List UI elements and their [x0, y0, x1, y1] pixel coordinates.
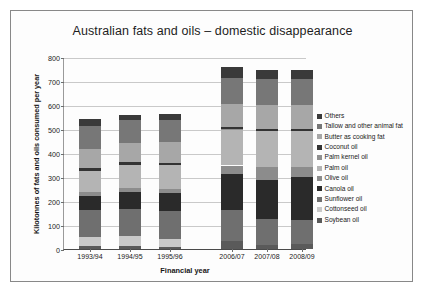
bar-segment — [256, 79, 278, 105]
y-axis-title: Kilotonnes of fats and oils consumed per… — [32, 73, 41, 233]
x-tick-mark — [170, 249, 171, 252]
bar-segment — [159, 142, 181, 163]
x-tick-mark — [232, 249, 233, 252]
bar-segment — [119, 162, 141, 165]
y-tick-label: 500 — [48, 126, 60, 135]
bar-segment — [79, 126, 101, 150]
legend-item-label: Tallow and other animal fat — [325, 123, 403, 130]
legend-item-butter-as-cooking-fat[interactable]: Butter as cooking fat — [317, 132, 411, 142]
bar-segment — [221, 210, 243, 241]
y-tick-label: 200 — [48, 198, 60, 207]
bar-segment — [221, 127, 243, 129]
legend-swatch-icon — [317, 114, 322, 119]
bar-segment — [159, 239, 181, 246]
bar-segment — [159, 211, 181, 240]
y-tick-mark — [61, 106, 64, 107]
y-tick-label: 700 — [48, 78, 60, 87]
x-tick-mark — [267, 249, 268, 252]
y-tick-mark — [61, 202, 64, 203]
legend-swatch-icon — [317, 124, 322, 129]
bar-segment — [119, 236, 141, 246]
legend-item-tallow-and-other-animal-fat[interactable]: Tallow and other animal fat — [317, 121, 411, 131]
bar-segment — [256, 70, 278, 79]
legend-item-label: Palm kernel oil — [325, 154, 368, 161]
y-tick-label: 800 — [48, 54, 60, 63]
x-tick-mark — [130, 249, 131, 252]
legend-swatch-icon — [317, 186, 322, 191]
bar-1993-94[interactable] — [79, 119, 101, 249]
bar-segment — [119, 143, 141, 163]
legend-item-label: Cottonseed oil — [325, 206, 367, 213]
legend-item-olive-oil[interactable]: Olive oil — [317, 173, 411, 183]
legend-item-label: Canola oil — [325, 186, 354, 193]
bar-2006-07[interactable] — [221, 67, 243, 249]
bar-2007-08[interactable] — [256, 70, 278, 249]
legend-item-label: Butter as cooking fat — [325, 134, 385, 141]
x-tick-label: 1994/95 — [117, 253, 142, 260]
y-tick-mark — [61, 178, 64, 179]
y-tick-label: 600 — [48, 102, 60, 111]
bar-segment — [256, 105, 278, 129]
bar-segment — [159, 189, 181, 193]
legend-swatch-icon — [317, 207, 322, 212]
legend-item-palm-kernel-oil[interactable]: Palm kernel oil — [317, 153, 411, 163]
bar-segment — [291, 70, 313, 79]
legend-item-label: Sunflower oil — [325, 196, 363, 203]
legend-item-label: Olive oil — [325, 175, 348, 182]
legend-swatch-icon — [317, 218, 322, 223]
bar-segment — [291, 79, 313, 105]
bar-segment — [221, 78, 243, 104]
x-axis-title: Financial year — [160, 266, 209, 275]
bar-segment — [221, 67, 243, 78]
bar-segment — [79, 210, 101, 237]
x-tick-label: 1995/96 — [157, 253, 182, 260]
bar-segment — [159, 163, 181, 166]
legend-item-cottonseed-oil[interactable]: Cottonseed oil — [317, 205, 411, 215]
bar-segment — [119, 192, 141, 209]
bar-segment — [291, 131, 313, 166]
x-tick-label: 1993/94 — [77, 253, 102, 260]
legend-item-sunflower-oil[interactable]: Sunflower oil — [317, 194, 411, 204]
bar-segment — [256, 219, 278, 245]
bar-segment — [291, 220, 313, 244]
legend-item-label: Others — [325, 113, 345, 120]
bar-segment — [79, 149, 101, 168]
x-tick-label: 2008/09 — [289, 253, 314, 260]
x-tick-label: 2007/08 — [254, 253, 279, 260]
gridline — [64, 58, 306, 59]
bar-segment — [256, 167, 278, 180]
bar-segment — [291, 177, 313, 220]
chart-title: Australian fats and oils – domestic disa… — [11, 24, 414, 38]
bar-segment — [221, 129, 243, 130]
bar-segment — [159, 114, 181, 120]
plot-area: 0100200300400500600700800 1993/941994/95… — [63, 58, 306, 250]
y-tick-mark — [61, 130, 64, 131]
y-tick-mark — [61, 58, 64, 59]
legend-item-canola-oil[interactable]: Canola oil — [317, 184, 411, 194]
figure-frame: Australian fats and oils – domestic disa… — [10, 10, 413, 282]
y-tick-label: 400 — [48, 150, 60, 159]
bar-segment — [159, 165, 181, 189]
bar-segment — [221, 241, 243, 249]
chart-legend: OthersTallow and other animal fatButter … — [317, 111, 411, 225]
y-tick-label: 0 — [56, 246, 60, 255]
bar-segment — [79, 171, 101, 193]
bar-segment — [79, 192, 101, 195]
bar-segment — [119, 209, 141, 236]
y-tick-mark — [61, 82, 64, 83]
y-tick-mark — [61, 226, 64, 227]
bar-2008-09[interactable] — [291, 70, 313, 249]
legend-item-label: Coconut oil — [325, 144, 358, 151]
bar-1994-95[interactable] — [119, 115, 141, 249]
legend-item-label: Soybean oil — [325, 217, 359, 224]
legend-item-palm-oil[interactable]: Palm oil — [317, 163, 411, 173]
bar-segment — [256, 131, 278, 167]
bar-segment — [119, 120, 141, 143]
legend-item-others[interactable]: Others — [317, 111, 411, 121]
legend-item-coconut-oil[interactable]: Coconut oil — [317, 142, 411, 152]
legend-item-soybean-oil[interactable]: Soybean oil — [317, 215, 411, 225]
legend-item-label: Palm oil — [325, 165, 348, 172]
bar-segment — [79, 119, 101, 126]
bar-1995-96[interactable] — [159, 114, 181, 249]
x-tick-mark — [90, 249, 91, 252]
